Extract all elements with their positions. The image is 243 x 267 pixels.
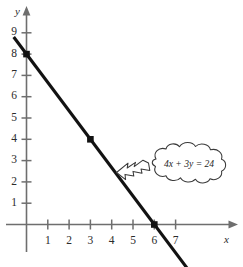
x-tick-label-3: 3 xyxy=(88,234,94,246)
x-tick-label-5: 5 xyxy=(130,234,136,246)
y-tick-label-5: 5 xyxy=(11,111,17,123)
y-tick-label-1: 1 xyxy=(11,196,17,208)
point-marker-midpoint xyxy=(87,136,94,143)
x-tick-label-6: 6 xyxy=(151,234,157,246)
point-marker-y-intercept xyxy=(23,51,30,58)
y-tick-label-4: 4 xyxy=(11,132,17,144)
x-tick-label-7: 7 xyxy=(173,234,179,246)
y-tick-label-2: 2 xyxy=(11,175,17,187)
equation-label: 4x + 3y = 24 xyxy=(164,158,214,169)
y-tick-label-7: 7 xyxy=(11,68,17,80)
x-axis-arrowhead xyxy=(229,221,239,229)
y-tick-label-3: 3 xyxy=(11,153,17,165)
y-tick-labels-group: 1 2 3 4 5 6 7 8 9 xyxy=(11,25,17,207)
graph-figure: 1 2 3 4 5 6 7 1 2 3 4 5 6 7 xyxy=(0,0,243,267)
y-tick-label-6: 6 xyxy=(11,89,17,101)
x-tick-label-2: 2 xyxy=(66,234,72,246)
x-axis-label: x xyxy=(223,233,229,245)
y-tick-label-8: 8 xyxy=(11,47,17,59)
y-axis-label: y xyxy=(14,5,20,17)
point-marker-x-intercept xyxy=(151,221,158,228)
y-tick-label-9: 9 xyxy=(11,25,17,37)
x-tick-label-1: 1 xyxy=(45,234,51,246)
x-tick-label-4: 4 xyxy=(109,234,115,246)
coordinate-plane-svg: 1 2 3 4 5 6 7 1 2 3 4 5 6 7 xyxy=(0,0,243,267)
x-tick-labels-group: 1 2 3 4 5 6 7 xyxy=(45,234,179,246)
axes-group xyxy=(6,6,238,252)
y-axis-arrowhead xyxy=(23,6,31,16)
callout-pointer-arrow xyxy=(117,160,150,179)
